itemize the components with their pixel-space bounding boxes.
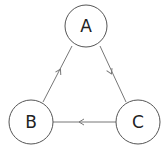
- edge-a-to-c: [100, 46, 126, 102]
- nodes-group: ABC: [9, 5, 160, 144]
- edge-line: [100, 46, 126, 102]
- edge-b-to-a: [43, 46, 72, 102]
- node-label: A: [80, 16, 92, 36]
- edge-c-to-b: [53, 119, 116, 125]
- node-b: B: [9, 100, 53, 144]
- edges-group: [43, 46, 126, 125]
- edge-line: [43, 46, 72, 102]
- node-label: B: [25, 112, 37, 132]
- node-label: C: [132, 112, 144, 132]
- node-a: A: [65, 5, 107, 47]
- node-c: C: [116, 100, 160, 144]
- cycle-diagram: ABC: [0, 0, 168, 155]
